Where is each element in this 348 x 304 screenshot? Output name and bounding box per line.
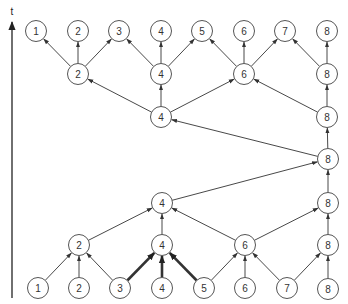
edge-arrow bbox=[293, 39, 320, 67]
node-label: 5 bbox=[201, 283, 207, 294]
node-label: 6 bbox=[242, 240, 248, 251]
process-node: 2 bbox=[69, 235, 90, 256]
process-node: 3 bbox=[109, 21, 130, 42]
node-label: 3 bbox=[116, 26, 122, 37]
node-label: 2 bbox=[76, 240, 82, 251]
edge-arrow bbox=[294, 253, 320, 280]
process-node: 2 bbox=[69, 278, 90, 299]
process-node: 4 bbox=[151, 64, 172, 85]
edge-arrow bbox=[251, 39, 277, 66]
edge-arrow bbox=[127, 253, 154, 281]
edge-arrow bbox=[253, 253, 280, 281]
edge-arrow bbox=[85, 39, 111, 66]
node-label: 8 bbox=[324, 112, 330, 123]
process-node: 5 bbox=[194, 278, 215, 299]
node-label: 6 bbox=[241, 69, 247, 80]
node-label: 6 bbox=[241, 26, 247, 37]
process-node: 4 bbox=[152, 278, 173, 299]
node-label: 2 bbox=[76, 283, 82, 294]
node-label: 1 bbox=[35, 283, 41, 294]
process-node: 6 bbox=[234, 64, 255, 85]
process-node: 4 bbox=[151, 21, 172, 42]
process-node: 7 bbox=[277, 278, 298, 299]
node-label: 8 bbox=[324, 26, 330, 37]
nodes: 12345678246848848246812345678 bbox=[26, 21, 339, 300]
process-node: 1 bbox=[26, 21, 47, 42]
process-node: 2 bbox=[68, 21, 89, 42]
process-node: 5 bbox=[192, 21, 213, 42]
node-label: 8 bbox=[324, 69, 330, 80]
process-node: 6 bbox=[234, 21, 255, 42]
node-label: 4 bbox=[159, 198, 165, 209]
node-label: 8 bbox=[325, 284, 331, 295]
process-node: 8 bbox=[317, 107, 338, 128]
edge-arrow bbox=[88, 208, 152, 240]
edge-arrow bbox=[211, 253, 237, 280]
edge-arrow bbox=[170, 253, 197, 281]
node-label: 4 bbox=[158, 69, 164, 80]
process-node: 8 bbox=[317, 21, 338, 42]
process-node: 1 bbox=[28, 278, 49, 299]
node-label: 2 bbox=[75, 26, 81, 37]
process-node: 4 bbox=[151, 107, 172, 128]
node-label: 2 bbox=[75, 69, 81, 80]
process-node: 4 bbox=[152, 193, 173, 214]
edge-arrow bbox=[127, 39, 154, 67]
process-node: 2 bbox=[68, 64, 89, 85]
edge-arrow bbox=[172, 162, 317, 201]
process-node: 8 bbox=[318, 235, 339, 256]
process-node: 6 bbox=[235, 278, 256, 299]
process-node: 8 bbox=[317, 64, 338, 85]
process-node: 4 bbox=[152, 235, 173, 256]
node-label: 4 bbox=[159, 283, 165, 294]
edge-arrow bbox=[254, 208, 318, 240]
node-label: 4 bbox=[158, 26, 164, 37]
node-label: 4 bbox=[159, 240, 165, 251]
node-label: 7 bbox=[282, 26, 288, 37]
reduction-broadcast-tree-diagram: t 12345678246848848246812345678 bbox=[0, 0, 348, 304]
edge-arrow bbox=[170, 79, 234, 112]
node-label: 4 bbox=[158, 112, 164, 123]
process-node: 8 bbox=[318, 193, 339, 214]
node-label: 1 bbox=[33, 26, 39, 37]
edge-arrow bbox=[254, 79, 318, 112]
edge-arrow bbox=[87, 253, 113, 280]
node-label: 7 bbox=[284, 283, 290, 294]
process-node: 8 bbox=[318, 149, 339, 170]
node-label: 3 bbox=[117, 283, 123, 294]
edge-arrow bbox=[44, 39, 71, 67]
node-label: 8 bbox=[325, 154, 331, 165]
node-label: 8 bbox=[325, 198, 331, 209]
edge-arrow bbox=[172, 120, 318, 157]
time-axis-label: t bbox=[11, 6, 14, 17]
node-label: 6 bbox=[242, 283, 248, 294]
edge-arrow bbox=[327, 128, 328, 149]
process-node: 6 bbox=[235, 235, 256, 256]
process-node: 3 bbox=[110, 278, 131, 299]
edge-arrow bbox=[45, 253, 71, 280]
edge-arrow bbox=[168, 39, 194, 66]
process-node: 7 bbox=[275, 21, 296, 42]
time-axis: t bbox=[11, 6, 14, 298]
edge-arrow bbox=[172, 208, 236, 240]
node-label: 8 bbox=[325, 240, 331, 251]
edge-arrow bbox=[88, 79, 152, 112]
edge-arrow bbox=[210, 39, 237, 67]
node-label: 5 bbox=[199, 26, 205, 37]
process-node: 8 bbox=[318, 279, 339, 300]
